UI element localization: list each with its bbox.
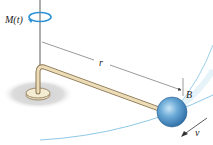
- rotating-rod-diagram: M(t) r B v: [0, 0, 213, 145]
- ball-label: B: [186, 90, 192, 100]
- velocity-arrow-icon: [181, 118, 207, 137]
- diagram-canvas: [0, 0, 213, 145]
- moment-label: M(t): [5, 15, 23, 25]
- radius-label: r: [99, 58, 103, 68]
- velocity-label: v: [195, 128, 199, 138]
- ball-b: [157, 97, 187, 127]
- rotation-arrow-icon: [28, 13, 51, 24]
